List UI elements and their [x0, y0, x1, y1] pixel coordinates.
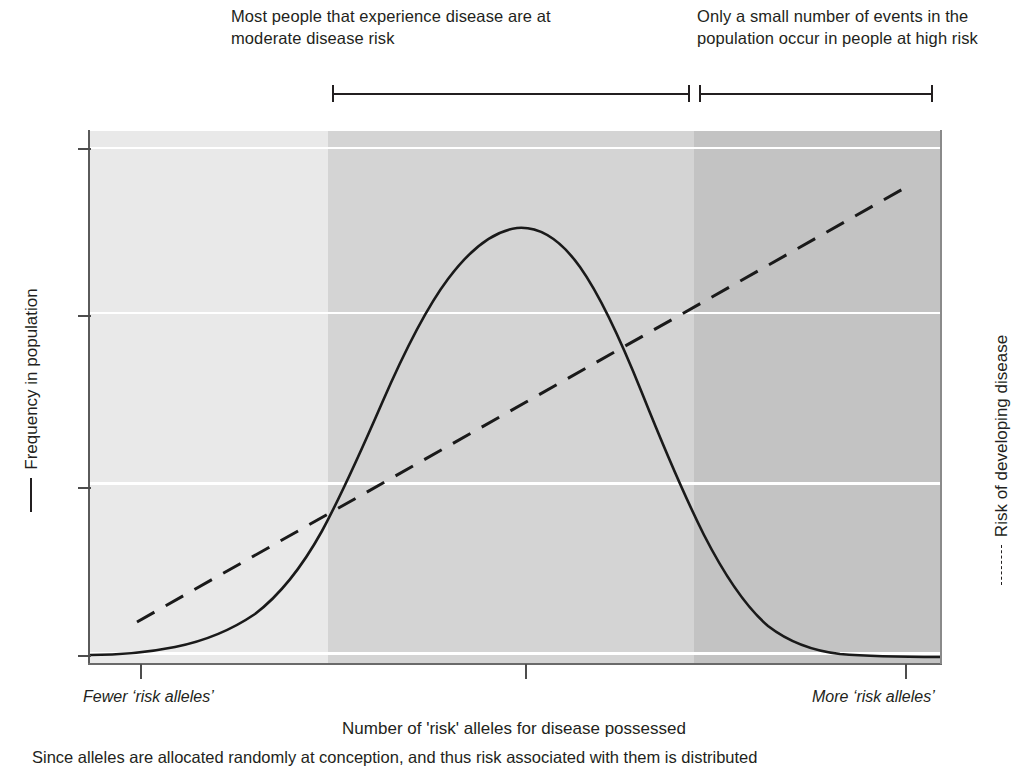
chart-curves [90, 131, 940, 663]
annotation-high-risk: Only a small number of events in the pop… [697, 6, 997, 50]
y-axis-tick [78, 315, 91, 317]
y-axis-line [88, 130, 90, 664]
bracket-high-risk-range [699, 85, 933, 103]
secondary-y-axis-title-text: Risk of developing disease [992, 335, 1011, 537]
bracket-bar [699, 93, 933, 95]
secondary-y-axis-line [940, 130, 942, 664]
series-risk-of-developing-disease [137, 185, 910, 622]
dashed-line-icon [1001, 545, 1002, 585]
figure-risk-allele-distribution: Most people that experience disease are … [0, 0, 1028, 772]
y-axis-tick [78, 655, 91, 657]
figure-caption: Since alleles are allocated randomly at … [32, 748, 1002, 767]
x-axis-tick [525, 664, 527, 679]
x-axis-line [88, 663, 942, 665]
x-axis-tick [905, 664, 907, 679]
solid-line-icon [30, 478, 32, 512]
y-axis-title-risk: Risk of developing disease [992, 200, 1012, 720]
x-axis-start-label: Fewer ‘risk alleles’ [83, 688, 214, 706]
y-axis-tick [78, 148, 91, 150]
bracket-cap-icon [688, 85, 690, 102]
bracket-cap-icon [931, 85, 933, 102]
y-axis-title-frequency: Frequency in population [22, 140, 42, 660]
y-axis-tick [78, 487, 91, 489]
x-axis-end-label: More ‘risk alleles’ [812, 688, 935, 706]
bracket-bar [332, 93, 690, 95]
annotation-moderate-risk: Most people that experience disease are … [231, 6, 561, 50]
bracket-moderate-risk-range [332, 85, 690, 103]
x-axis-title: Number of 'risk' alleles for disease pos… [0, 719, 1028, 739]
y-axis-title-text: Frequency in population [22, 288, 41, 469]
x-axis-tick [140, 664, 142, 679]
series-frequency-in-population [90, 228, 940, 657]
